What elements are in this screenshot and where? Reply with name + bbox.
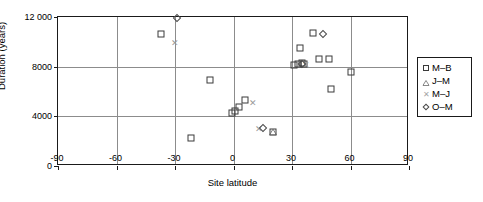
x-axis-tick (234, 166, 235, 170)
data-point-mb (187, 135, 194, 142)
data-point-mb (236, 104, 243, 111)
diamond-icon (420, 101, 432, 112)
x-axis-tick (117, 166, 118, 170)
y-axis-tick (54, 17, 58, 18)
data-point-jm (269, 129, 277, 136)
x-axis-tick-label: -30 (167, 153, 180, 163)
legend-item-mj[interactable]: ✕M–J (420, 87, 468, 100)
legend-item-om[interactable]: O–M (420, 100, 468, 113)
data-point-om (173, 13, 181, 21)
legend-item-label: O–M (432, 101, 453, 112)
data-point-mb (316, 56, 323, 63)
data-point-mb (310, 30, 317, 37)
x-axis-tick (175, 166, 176, 170)
x-axis-tick (58, 166, 59, 170)
legend-item-label: J–M (432, 75, 450, 86)
legend-item-label: M–J (432, 88, 450, 99)
x-axis-tick-label: 90 (403, 153, 413, 163)
x-axis-tick-label: -90 (50, 153, 63, 163)
data-point-mb (328, 86, 335, 93)
y-axis-tick-label: 8000 (32, 62, 52, 72)
data-point-mj: ✕ (249, 99, 257, 107)
data-point-mb (158, 31, 165, 38)
x-axis-tick (409, 166, 410, 170)
y-axis-tick (54, 166, 58, 167)
data-point-mb (326, 56, 333, 63)
data-point-om (319, 30, 327, 38)
gridline-vertical (117, 17, 118, 164)
gridline-vertical (292, 17, 293, 164)
plot-area: ✕✕✕✕ 04000800012 000 (57, 16, 408, 165)
data-point-mj: ✕ (171, 39, 179, 47)
gridline-horizontal (58, 67, 407, 68)
data-point-mb (347, 69, 354, 76)
x-axis-title: Site latitude (57, 177, 408, 188)
x-axis-tick (292, 166, 293, 170)
x-axis-tick-label: 30 (286, 153, 296, 163)
gridline-vertical (234, 17, 235, 164)
x-axis-tick-label: 60 (344, 153, 354, 163)
gridline-horizontal (58, 116, 407, 117)
y-axis-tick (54, 67, 58, 68)
y-axis-tick (54, 116, 58, 117)
x-axis-tick-label: 0 (230, 153, 235, 163)
data-point-mb (296, 45, 303, 52)
x-axis-tick-label: -60 (109, 153, 122, 163)
data-point-mb (242, 97, 249, 104)
legend-item-jm[interactable]: J–M (420, 74, 468, 87)
chart-legend: M–BJ–M✕M–JO–M (417, 57, 472, 117)
x-axis-tick (351, 166, 352, 170)
data-point-mb (207, 77, 214, 84)
y-axis-tick-label: 4000 (32, 111, 52, 121)
scatter-chart-figure: Duration (years) ✕✕✕✕ 04000800012 000 -9… (0, 0, 483, 202)
legend-item-label: M–B (432, 62, 452, 73)
x-icon: ✕ (420, 88, 432, 99)
gridline-vertical (351, 17, 352, 164)
y-axis-tick-label: 12 000 (24, 12, 52, 22)
triangle-icon (420, 75, 432, 86)
y-axis-title: Duration (years) (0, 22, 7, 90)
